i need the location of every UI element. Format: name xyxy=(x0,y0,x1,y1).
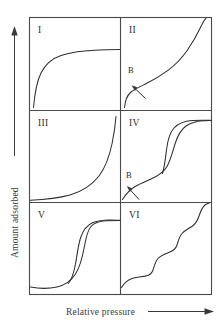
panel-5-desorption-curve xyxy=(69,220,121,284)
x-axis-label: Relative pressure xyxy=(66,307,135,317)
isotherm-figure: Amount adsorbed Relative pressure I II B xyxy=(0,0,222,329)
panel-1-label: I xyxy=(38,25,41,35)
panel-2-point-b-label: B xyxy=(128,65,134,75)
panel-1: I xyxy=(34,25,121,108)
y-axis-label: Amount adsorbed xyxy=(10,187,20,258)
panel-3: III xyxy=(31,117,117,201)
panel-1-curve xyxy=(34,50,121,108)
panel-6-label: VI xyxy=(129,210,140,220)
panel-5-adsorption-curve xyxy=(31,220,121,288)
panel-2-label: II xyxy=(129,25,136,35)
panel-4: IV B xyxy=(123,118,212,200)
panel-4-point-b-label: B xyxy=(126,170,132,180)
panel-4-desorption-curve xyxy=(163,120,212,173)
panel-3-curve xyxy=(31,117,117,201)
figure-canvas: Amount adsorbed Relative pressure I II B xyxy=(0,0,222,329)
panel-grid-frame xyxy=(30,18,212,295)
panel-4-adsorption-curve xyxy=(123,120,212,199)
y-axis-arrow xyxy=(11,26,17,156)
panel-3-label: III xyxy=(38,118,48,128)
panel-2-curve xyxy=(125,18,207,107)
panel-2: II B xyxy=(125,18,207,107)
panel-5: V xyxy=(31,210,121,288)
panel-6: VI xyxy=(122,203,210,287)
x-axis-arrow xyxy=(148,308,214,314)
panel-4-label: IV xyxy=(129,118,140,128)
panel-5-label: V xyxy=(38,210,45,220)
